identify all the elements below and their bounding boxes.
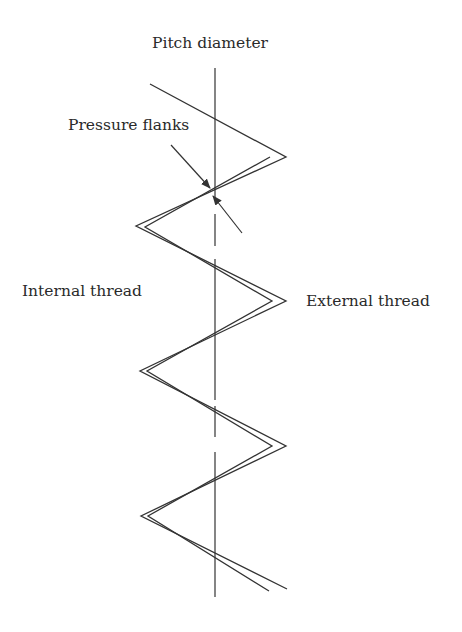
external-thread-label: External thread: [306, 294, 430, 310]
pressure-flanks-label: Pressure flanks: [68, 118, 189, 134]
diagram-svg: [0, 0, 462, 632]
pressure-flank-arrows: [171, 145, 242, 233]
internal-thread-label: Internal thread: [22, 284, 142, 300]
internal-thread-profile: [145, 157, 272, 591]
arrow: [171, 145, 210, 188]
pitch-diameter-label: Pitch diameter: [152, 36, 268, 52]
thread-diagram: Pitch diameter Pressure flanks Internal …: [0, 0, 462, 632]
arrow: [213, 196, 242, 233]
